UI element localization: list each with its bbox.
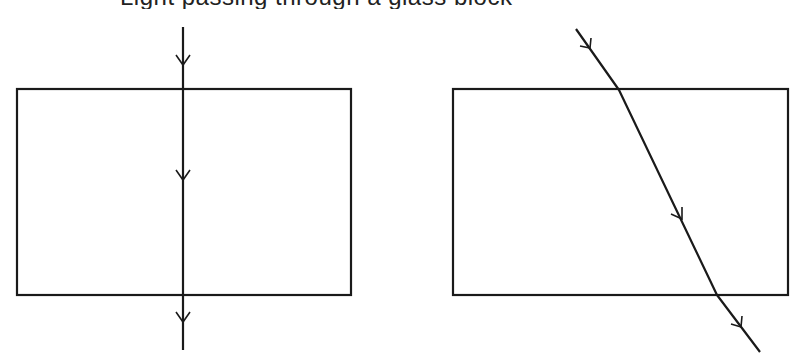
diagram-normal-incidence <box>17 27 351 350</box>
optics-diagram <box>0 0 794 364</box>
diagram-oblique-incidence <box>453 29 788 352</box>
glass-block-right <box>453 89 788 295</box>
light-ray-right <box>576 29 760 352</box>
